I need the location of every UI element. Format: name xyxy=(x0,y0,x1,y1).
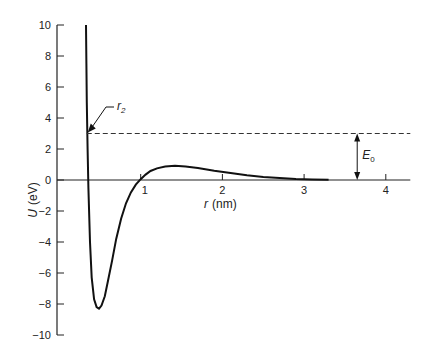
y-axis-label: U(eV) xyxy=(26,182,40,217)
x-tick-label: 4 xyxy=(383,184,389,196)
x-tick-label: 3 xyxy=(301,184,307,196)
y-ticks: 1086420−2−4−6−8−10 xyxy=(32,19,64,341)
axes xyxy=(57,25,410,335)
r2-leader-line xyxy=(92,107,106,128)
x-axis-label: r(nm) xyxy=(204,197,237,211)
y-tick-label: 8 xyxy=(45,50,51,62)
y-tick-label: 2 xyxy=(45,143,51,155)
r2-annotation: r2 xyxy=(88,99,126,133)
y-tick-label: 0 xyxy=(45,174,51,186)
potential-energy-chart: 1086420−2−4−6−8−10 1234 r2 E0 r(nm) U(eV… xyxy=(0,0,430,362)
e0-annotation: E0 xyxy=(354,134,375,181)
y-tick-label: −10 xyxy=(32,329,51,341)
e0-label: E0 xyxy=(362,148,375,164)
x-tick-label: 2 xyxy=(219,184,225,196)
potential-curve xyxy=(86,25,329,309)
y-tick-label: −8 xyxy=(38,298,51,310)
y-tick-label: −4 xyxy=(38,236,51,248)
y-tick-label: −2 xyxy=(38,205,51,217)
x-tick-label: 1 xyxy=(142,184,148,196)
y-tick-label: −6 xyxy=(38,267,51,279)
r2-label: r2 xyxy=(117,99,126,115)
r2-arrowhead xyxy=(88,124,96,133)
e0-arrowhead-bottom xyxy=(354,172,360,180)
y-tick-label: 6 xyxy=(45,81,51,93)
e0-arrowhead-top xyxy=(354,134,360,142)
y-tick-label: 10 xyxy=(39,19,51,31)
y-tick-label: 4 xyxy=(45,112,51,124)
